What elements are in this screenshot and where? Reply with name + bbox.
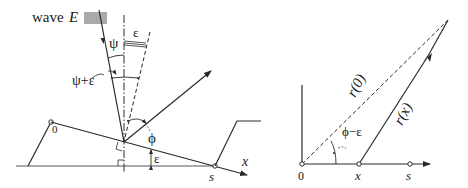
psi-label: ψ xyxy=(109,35,119,51)
origin-point xyxy=(300,162,304,166)
r0-label: r(0) xyxy=(344,71,370,100)
origin-label: 0 xyxy=(52,123,58,135)
wave-e-hatch xyxy=(84,13,107,23)
s-label: s xyxy=(406,168,411,183)
x-label: x xyxy=(354,168,361,183)
epsilon-hatch xyxy=(124,41,146,47)
psi-epsilon-pointer xyxy=(108,71,116,74)
arc-dot xyxy=(111,77,113,79)
rx-label: r(x) xyxy=(391,100,417,128)
x-axis-label: x xyxy=(241,154,249,169)
epsilon-bottom-label: ε xyxy=(154,151,160,166)
origin-label: 0 xyxy=(298,169,304,183)
x-point xyxy=(357,162,361,166)
incident-ray xyxy=(99,10,124,142)
left-diagram: wave E ψ ε ψ+ε ϕ ε 0 s x xyxy=(16,9,261,184)
s-point xyxy=(408,162,412,166)
surface-normal-line xyxy=(124,32,150,142)
psi-angle-arc xyxy=(108,55,124,58)
psi-plus-epsilon-arc xyxy=(112,77,138,78)
arc-dot xyxy=(333,152,335,154)
reflected-ray xyxy=(124,71,211,142)
rx-arrowhead xyxy=(422,53,432,62)
s-label: s xyxy=(209,169,214,184)
right-angle-marker-upper xyxy=(116,142,122,151)
right-diagram: r(0) r(x) ϕ−ε 0 x s xyxy=(298,20,448,183)
right-step-edge xyxy=(215,121,261,166)
wave-label: wave xyxy=(32,9,64,25)
arc-dot xyxy=(137,77,139,79)
epsilon-top-label: ε xyxy=(133,25,139,40)
arc-dot xyxy=(127,120,129,122)
wave-e-symbol: E xyxy=(68,9,78,25)
r0-dashed-line xyxy=(302,20,448,164)
rx-vector-tail xyxy=(428,20,448,56)
phi-minus-epsilon-label: ϕ−ε xyxy=(342,124,362,139)
diagram-canvas: wave E ψ ε ψ+ε ϕ ε 0 s x r(0) r(x) ϕ−ε xyxy=(0,0,468,188)
right-angle-marker-lower xyxy=(118,160,124,166)
arc-leader xyxy=(338,147,347,150)
psi-plus-epsilon-label: ψ+ε xyxy=(72,73,95,88)
rx-vector xyxy=(359,56,428,164)
phi-label: ϕ xyxy=(148,130,156,146)
left-slope-edge xyxy=(28,122,51,166)
